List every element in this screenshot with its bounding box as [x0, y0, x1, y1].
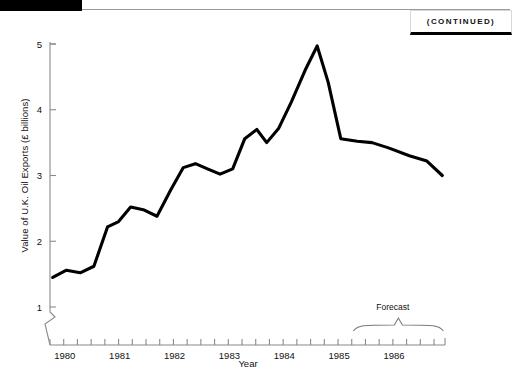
chart-page: (CONTINUED) 1234519801981198219831984198…	[0, 0, 517, 374]
x-tick-label-1985: 1985	[329, 350, 350, 361]
y-tick-label-4: 4	[37, 104, 42, 115]
x-axis-label: Year	[198, 358, 298, 369]
x-tick-label-1986: 1986	[383, 350, 404, 361]
forecast-annotation-label: Forecast	[376, 302, 409, 312]
y-axis-label: Value of U.K. Oil Exports (£ billions)	[19, 56, 30, 296]
x-tick-label-1981: 1981	[109, 350, 130, 361]
x-tick-label-1980: 1980	[54, 350, 75, 361]
y-tick-label-3: 3	[37, 170, 42, 181]
forecast-brace	[353, 318, 443, 331]
y-axis-line	[45, 42, 55, 345]
y-tick-label-5: 5	[37, 39, 42, 50]
y-tick-label-1: 1	[37, 302, 42, 313]
data-series-line	[53, 46, 443, 277]
y-tick-label-2: 2	[37, 236, 42, 247]
line-chart-svg: 123451980198119821983198419851986	[0, 0, 517, 374]
chart-plot-area: 123451980198119821983198419851986 Value …	[0, 0, 517, 374]
x-tick-label-1982: 1982	[164, 350, 185, 361]
